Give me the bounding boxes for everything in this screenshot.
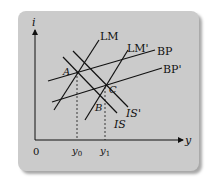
- bp-prime-label: BP': [163, 63, 182, 76]
- is-prime-label: IS': [125, 107, 141, 120]
- lm-prime-label: LM': [127, 42, 149, 55]
- x-axis-label: y: [184, 134, 192, 147]
- point-a-label: A: [62, 66, 70, 77]
- y1-label: y1: [99, 145, 110, 158]
- bp-label: BP: [157, 45, 173, 58]
- lm-label: LM: [100, 30, 119, 43]
- is-prime-curve: [73, 51, 128, 107]
- is-lm-bp-diagram: LM LM' BP BP' IS IS' A B C i y 0 y0 y1: [0, 0, 211, 181]
- y0-label: y0: [71, 145, 82, 158]
- is-label: IS: [113, 118, 126, 131]
- point-b-label: B: [94, 102, 102, 113]
- point-c-label: C: [109, 84, 117, 95]
- y-axis-label: i: [32, 16, 36, 29]
- origin-label: 0: [33, 146, 39, 157]
